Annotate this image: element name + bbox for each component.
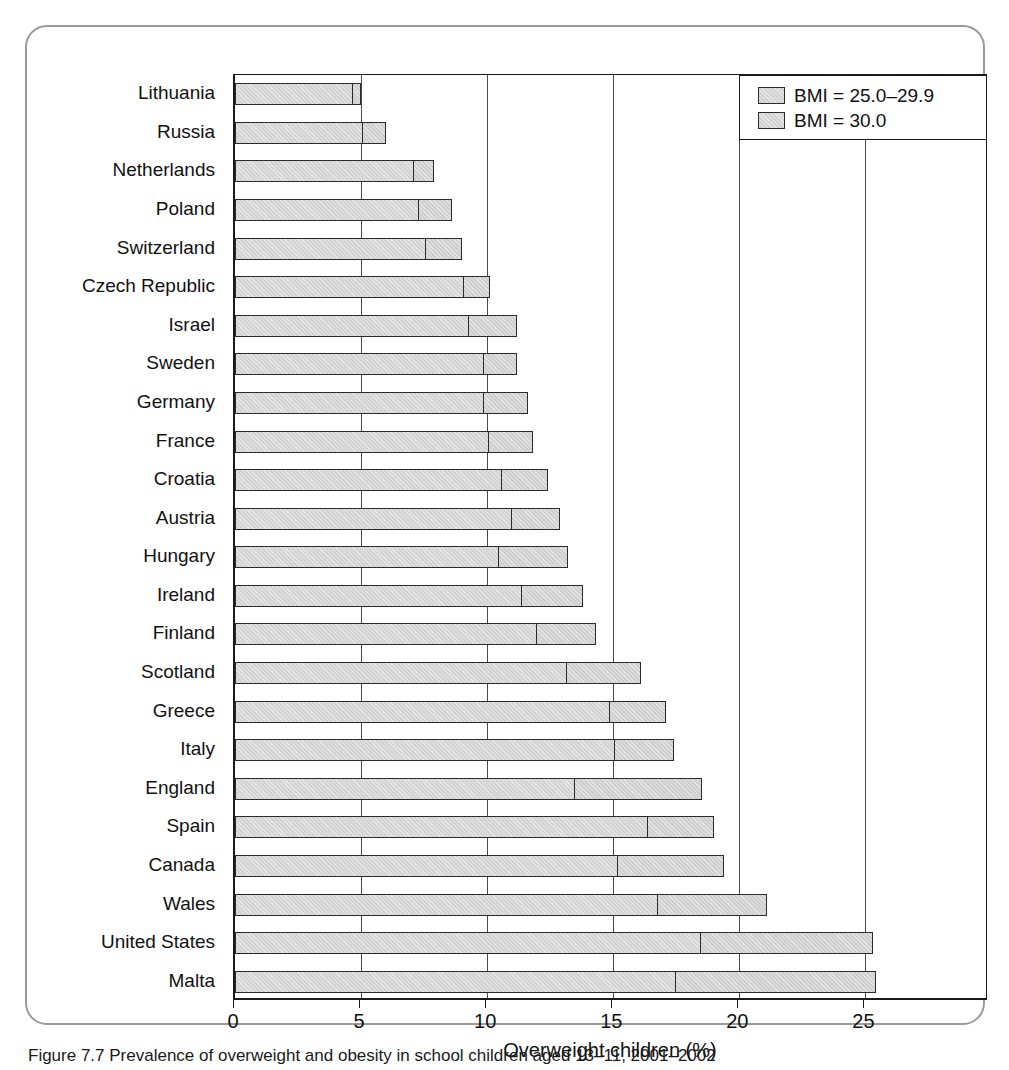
- bar-row: [235, 894, 989, 916]
- bar-segment-overweight: [235, 508, 512, 530]
- bar-segment-obese: [488, 431, 532, 453]
- bar-segment-obese: [483, 353, 517, 375]
- bar-segment-obese: [647, 816, 714, 838]
- bar-row: [235, 431, 989, 453]
- bar-row: [235, 816, 989, 838]
- bar-segment-obese: [536, 623, 596, 645]
- bar-segment-overweight: [235, 199, 419, 221]
- y-axis-label-spain: Spain: [25, 815, 215, 837]
- legend-label-overweight: BMI = 25.0–29.9: [794, 85, 934, 107]
- bar-segment-overweight: [235, 83, 354, 105]
- bar-row: [235, 160, 989, 182]
- bar-segment-overweight: [235, 276, 464, 298]
- bar-row: [235, 971, 989, 993]
- bar-segment-overweight: [235, 662, 568, 684]
- bar-segment-obese: [675, 971, 876, 993]
- bar-segment-overweight: [235, 894, 659, 916]
- bar-segment-overweight: [235, 238, 427, 260]
- bar-segment-obese: [657, 894, 767, 916]
- x-tick-mark-5: [359, 1000, 360, 1008]
- x-tick-label-20: 20: [726, 1010, 748, 1033]
- bar-row: [235, 932, 989, 954]
- bar-segment-obese: [566, 662, 641, 684]
- bar-segment-overweight: [235, 585, 522, 607]
- bar-segment-obese: [498, 546, 568, 568]
- legend-swatch-obese-icon: [758, 112, 785, 129]
- bar-row: [235, 546, 989, 568]
- bar-row: [235, 508, 989, 530]
- bar-row: [235, 701, 989, 723]
- y-axis-label-malta: Malta: [25, 970, 215, 992]
- bar-row: [235, 623, 989, 645]
- bar-segment-obese: [425, 238, 462, 260]
- bar-segment-obese: [483, 392, 527, 414]
- bar-segment-obese: [413, 160, 435, 182]
- y-axis-label-france: France: [25, 430, 215, 452]
- bar-row: [235, 199, 989, 221]
- bar-row: [235, 315, 989, 337]
- legend-swatch-overweight-icon: [758, 87, 785, 104]
- bar-segment-obese: [501, 469, 548, 491]
- legend-item-overweight: BMI = 25.0–29.9: [758, 83, 986, 108]
- bar-row: [235, 238, 989, 260]
- x-tick-mark-0: [233, 1000, 234, 1008]
- y-axis-label-wales: Wales: [25, 893, 215, 915]
- y-axis-label-canada: Canada: [25, 854, 215, 876]
- bar-segment-overweight: [235, 315, 470, 337]
- y-axis-label-ireland: Ireland: [25, 584, 215, 606]
- bar-segment-obese: [617, 855, 724, 877]
- y-axis-label-lithuania: Lithuania: [25, 82, 215, 104]
- y-axis-label-czech-republic: Czech Republic: [25, 275, 215, 297]
- bar-segment-obese: [700, 932, 873, 954]
- bar-row: [235, 392, 989, 414]
- bar-segment-overweight: [235, 160, 414, 182]
- y-axis-label-croatia: Croatia: [25, 468, 215, 490]
- y-axis-label-poland: Poland: [25, 198, 215, 220]
- y-axis-label-united-states: United States: [25, 931, 215, 953]
- bars-layer: [235, 75, 986, 998]
- bar-row: [235, 855, 989, 877]
- y-axis-label-greece: Greece: [25, 700, 215, 722]
- y-axis-label-switzerland: Switzerland: [25, 237, 215, 259]
- bar-segment-overweight: [235, 469, 502, 491]
- y-axis-label-hungary: Hungary: [25, 545, 215, 567]
- x-tick-label-10: 10: [474, 1010, 496, 1033]
- x-tick-mark-10: [485, 1000, 486, 1008]
- legend-item-obese: BMI = 30.0: [758, 108, 986, 133]
- bar-segment-overweight: [235, 971, 676, 993]
- y-axis-label-russia: Russia: [25, 121, 215, 143]
- bar-row: [235, 276, 989, 298]
- bar-segment-obese: [463, 276, 490, 298]
- legend-label-obese: BMI = 30.0: [794, 110, 886, 132]
- y-axis-label-germany: Germany: [25, 391, 215, 413]
- x-tick-mark-20: [737, 1000, 738, 1008]
- bar-segment-obese: [609, 701, 666, 723]
- bar-segment-overweight: [235, 701, 611, 723]
- bar-segment-overweight: [235, 778, 575, 800]
- y-axis-label-england: England: [25, 777, 215, 799]
- y-axis-label-italy: Italy: [25, 738, 215, 760]
- bar-segment-overweight: [235, 932, 702, 954]
- bar-segment-obese: [418, 199, 452, 221]
- bar-segment-overweight: [235, 122, 364, 144]
- x-tick-mark-15: [611, 1000, 612, 1008]
- bar-segment-overweight: [235, 623, 538, 645]
- bar-segment-overweight: [235, 353, 485, 375]
- bar-row: [235, 739, 989, 761]
- y-axis-label-sweden: Sweden: [25, 352, 215, 374]
- bar-segment-obese: [468, 315, 517, 337]
- plot-area: [233, 74, 987, 1000]
- x-tick-label-15: 15: [600, 1010, 622, 1033]
- bar-row: [235, 662, 989, 684]
- bar-segment-overweight: [235, 546, 500, 568]
- bar-segment-obese: [614, 739, 674, 761]
- bar-segment-overweight: [235, 392, 485, 414]
- bar-segment-obese: [574, 778, 702, 800]
- bar-row: [235, 778, 989, 800]
- x-tick-label-0: 0: [227, 1010, 238, 1033]
- bar-segment-obese: [511, 508, 560, 530]
- bar-segment-obese: [352, 83, 361, 105]
- y-axis-label-austria: Austria: [25, 507, 215, 529]
- y-axis-label-israel: Israel: [25, 314, 215, 336]
- y-axis-label-netherlands: Netherlands: [25, 159, 215, 181]
